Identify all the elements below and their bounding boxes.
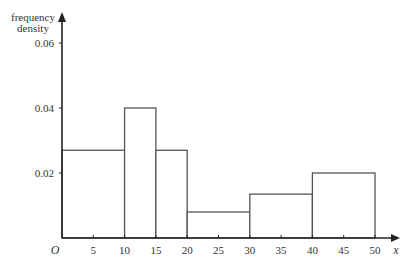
- x-tick-label: 15: [150, 244, 162, 256]
- histogram-chart: 51015202530354045500.020.040.06Oxfrequen…: [0, 0, 410, 266]
- y-tick-label: 0.04: [35, 102, 55, 114]
- x-tick-label: 5: [91, 244, 97, 256]
- histogram-bar: [125, 108, 156, 238]
- x-tick-label: 45: [338, 244, 350, 256]
- y-axis-arrow-icon: [58, 12, 66, 22]
- histogram-bars: [62, 108, 375, 238]
- x-tick-label: 25: [213, 244, 225, 256]
- y-tick-label: 0.06: [35, 37, 55, 49]
- y-axis-label-line2: density: [17, 22, 49, 34]
- histogram-bar: [62, 150, 125, 238]
- x-tick-label: 40: [307, 244, 319, 256]
- origin-label: O: [51, 243, 60, 257]
- histogram-bar: [156, 150, 187, 238]
- x-axis-arrow-icon: [391, 234, 400, 242]
- x-tick-label: 20: [182, 244, 194, 256]
- histogram-bar: [187, 212, 250, 238]
- x-axis-label: x: [392, 243, 399, 257]
- histogram-bar: [312, 173, 375, 238]
- y-tick-label: 0.02: [35, 167, 54, 179]
- x-tick-label: 30: [244, 244, 256, 256]
- x-tick-label: 50: [370, 244, 382, 256]
- x-tick-label: 10: [119, 244, 131, 256]
- x-tick-label: 35: [276, 244, 288, 256]
- histogram-bar: [250, 194, 313, 238]
